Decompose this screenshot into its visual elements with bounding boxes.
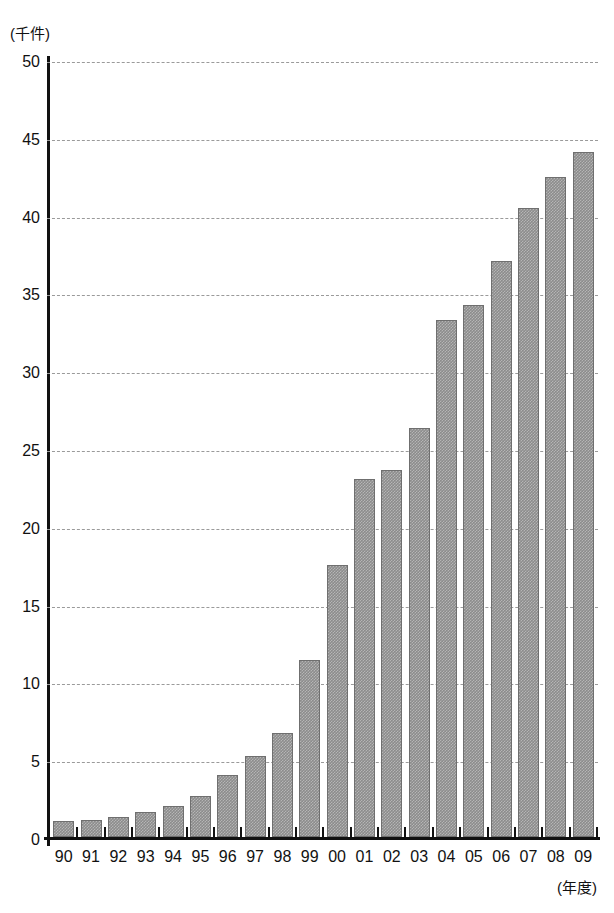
bar-slot xyxy=(460,62,487,837)
x-tick-mark xyxy=(596,827,598,837)
bar-slot xyxy=(159,62,186,837)
bar-slot xyxy=(323,62,350,837)
x-tick-label: 90 xyxy=(50,848,77,866)
bar xyxy=(518,208,539,837)
x-tick-label: 98 xyxy=(269,848,296,866)
x-axis-tick-marks xyxy=(50,827,597,837)
bar xyxy=(272,733,293,837)
bar-slot xyxy=(132,62,159,837)
x-axis-line xyxy=(44,837,600,840)
x-tick-slot xyxy=(351,827,378,837)
x-tick-slot xyxy=(187,827,214,837)
x-tick-label: 95 xyxy=(187,848,214,866)
y-axis-tick-labels: 05101520253035404550 xyxy=(0,62,40,840)
bar xyxy=(491,261,512,837)
x-tick-label: 01 xyxy=(351,848,378,866)
x-tick-label: 02 xyxy=(378,848,405,866)
y-tick-label: 20 xyxy=(6,520,40,538)
y-tick-label: 45 xyxy=(6,131,40,149)
bar-slot xyxy=(187,62,214,837)
x-tick-slot xyxy=(515,827,542,837)
x-tick-slot xyxy=(50,827,77,837)
x-tick-slot xyxy=(488,827,515,837)
bar xyxy=(245,756,266,837)
bar-slot xyxy=(488,62,515,837)
bar-slot xyxy=(214,62,241,837)
bar-slot xyxy=(77,62,104,837)
x-tick-slot xyxy=(77,827,104,837)
x-tick-label: 93 xyxy=(132,848,159,866)
plot-area xyxy=(47,62,597,840)
x-tick-slot xyxy=(542,827,569,837)
bar-slot xyxy=(351,62,378,837)
x-tick-slot xyxy=(105,827,132,837)
x-tick-label: 07 xyxy=(515,848,542,866)
x-tick-slot xyxy=(241,827,268,837)
x-tick-slot xyxy=(296,827,323,837)
x-tick-label: 09 xyxy=(570,848,597,866)
bar xyxy=(436,320,457,837)
y-tick-label: 5 xyxy=(6,753,40,771)
bar-slot xyxy=(296,62,323,837)
bar xyxy=(354,479,375,837)
bar-slot xyxy=(378,62,405,837)
x-tick-slot xyxy=(570,827,597,837)
y-tick-label: 30 xyxy=(6,364,40,382)
y-tick-label: 25 xyxy=(6,442,40,460)
x-tick-label: 08 xyxy=(542,848,569,866)
bar-slot xyxy=(515,62,542,837)
x-tick-slot xyxy=(323,827,350,837)
bar-chart: (千件) 05101520253035404550 90919293949596… xyxy=(0,0,614,913)
bar-slot xyxy=(542,62,569,837)
y-axis-unit-label: (千件) xyxy=(10,22,50,43)
x-tick-label: 92 xyxy=(105,848,132,866)
y-tick-label: 10 xyxy=(6,675,40,693)
x-tick-label: 05 xyxy=(460,848,487,866)
x-tick-label: 91 xyxy=(77,848,104,866)
x-tick-slot xyxy=(405,827,432,837)
bar-slot xyxy=(269,62,296,837)
bar-slot xyxy=(50,62,77,837)
x-tick-slot xyxy=(214,827,241,837)
bar xyxy=(545,177,566,837)
x-tick-label: 96 xyxy=(214,848,241,866)
x-tick-label: 00 xyxy=(323,848,350,866)
x-axis-unit-label: (年度) xyxy=(557,876,597,897)
bar xyxy=(409,428,430,837)
bar-series xyxy=(50,62,597,837)
bar xyxy=(381,470,402,837)
x-tick-slot xyxy=(433,827,460,837)
x-tick-slot xyxy=(460,827,487,837)
y-tick-label: 0 xyxy=(6,831,40,849)
x-axis-tick-labels: 9091929394959697989900010203040506070809 xyxy=(50,848,600,866)
bar xyxy=(299,660,320,837)
x-tick-label: 97 xyxy=(241,848,268,866)
y-tick-label: 50 xyxy=(6,53,40,71)
bar-slot xyxy=(405,62,432,837)
bar-slot xyxy=(105,62,132,837)
bar-slot xyxy=(241,62,268,837)
y-tick-label: 15 xyxy=(6,598,40,616)
x-tick-label: 04 xyxy=(433,848,460,866)
bar-slot xyxy=(433,62,460,837)
bar xyxy=(573,152,594,837)
x-tick-label: 94 xyxy=(159,848,186,866)
bar xyxy=(463,305,484,837)
bar xyxy=(327,565,348,837)
y-tick-label: 40 xyxy=(6,209,40,227)
bar-slot xyxy=(570,62,597,837)
x-tick-slot xyxy=(159,827,186,837)
x-tick-label: 03 xyxy=(405,848,432,866)
x-tick-slot xyxy=(269,827,296,837)
x-tick-slot xyxy=(378,827,405,837)
x-tick-label: 06 xyxy=(488,848,515,866)
y-tick-label: 35 xyxy=(6,286,40,304)
x-tick-label: 99 xyxy=(296,848,323,866)
x-tick-slot xyxy=(132,827,159,837)
